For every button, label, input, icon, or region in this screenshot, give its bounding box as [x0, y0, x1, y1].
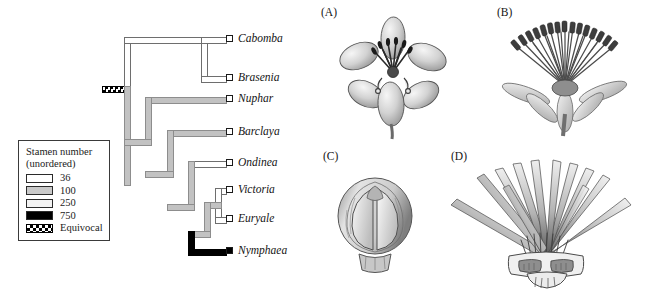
- flower-illustration-a: [333, 12, 453, 140]
- terminal-box-victoria-icon: [226, 186, 233, 193]
- legend-swatch-750-icon: [26, 211, 53, 220]
- terminal-box-euryale-icon: [226, 215, 233, 222]
- legend-swatch-250-icon: [26, 199, 53, 208]
- taxon-nymphaea: Nymphaea: [226, 243, 287, 257]
- legend-title: Stamen number (unordered): [26, 146, 103, 169]
- legend-item-250: 250: [26, 197, 103, 210]
- legend-box: Stamen number (unordered) 36 100 250 750…: [18, 140, 110, 241]
- taxon-ondinea: Ondinea: [226, 155, 278, 169]
- terminal-box-nymphaea-icon: [226, 247, 233, 254]
- terminal-box-brasenia-icon: [226, 74, 233, 81]
- branch-root-equivocal: [102, 86, 126, 93]
- branch-terminal-barclaya: [167, 130, 227, 137]
- taxon-euryale: Euryale: [226, 211, 274, 225]
- legend-label-250: 250: [60, 197, 76, 209]
- flower-illustration-c: [325, 168, 425, 280]
- terminal-box-cabomba-icon: [226, 35, 233, 42]
- figure-root: Stamen number (unordered) 36 100 250 750…: [0, 0, 657, 293]
- legend-item-36: 36: [26, 172, 103, 185]
- branch-to-node4: [167, 204, 195, 211]
- branch-terminal-nuphar: [145, 97, 227, 104]
- legend-label-750: 750: [60, 210, 76, 222]
- legend-title-line2: (unordered): [26, 158, 103, 170]
- taxon-victoria: Victoria: [226, 182, 275, 196]
- taxon-brasenia: Brasenia: [226, 70, 280, 84]
- branch-terminal-nymphaea: [188, 249, 227, 256]
- branch-to-node3: [145, 171, 174, 178]
- taxon-label-euryale: Euryale: [238, 212, 274, 225]
- branch-basal-vertical-lower: [124, 86, 131, 186]
- panel-label-c: (C): [323, 150, 338, 162]
- taxon-label-cabomba: Cabomba: [238, 32, 283, 45]
- terminal-box-barclaya-icon: [226, 128, 233, 135]
- legend-label-36: 36: [60, 172, 71, 184]
- branch-to-cabomba-brasenia-node: [124, 37, 208, 44]
- legend-item-100: 100: [26, 185, 103, 198]
- flower-illustration-d: [443, 158, 648, 291]
- legend-label-100: 100: [60, 185, 76, 197]
- flower-illustration-b: [500, 14, 630, 139]
- legend-swatch-36-icon: [26, 174, 53, 183]
- branch-terminal-brasenia: [201, 76, 227, 83]
- taxon-label-nuphar: Nuphar: [238, 92, 273, 105]
- legend-title-line1: Stamen number: [26, 146, 103, 158]
- legend-item-equivocal: Equivocal: [26, 222, 103, 235]
- branch-to-node2: [124, 139, 152, 146]
- terminal-box-nuphar-icon: [226, 95, 233, 102]
- legend-swatch-equivocal-icon: [26, 224, 53, 233]
- taxon-label-nymphaea: Nymphaea: [238, 244, 287, 257]
- legend-label-equivocal: Equivocal: [60, 222, 103, 234]
- taxon-label-ondinea: Ondinea: [238, 156, 278, 169]
- taxon-label-victoria: Victoria: [238, 183, 275, 196]
- taxon-label-barclaya: Barclaya: [238, 125, 280, 138]
- taxon-label-brasenia: Brasenia: [238, 71, 280, 84]
- taxon-nuphar: Nuphar: [226, 91, 273, 105]
- branch-basal-vertical-upper: [124, 37, 131, 93]
- legend-item-750: 750: [26, 210, 103, 223]
- taxon-cabomba: Cabomba: [226, 31, 283, 45]
- taxon-barclaya: Barclaya: [226, 124, 280, 138]
- terminal-box-ondinea-icon: [226, 159, 233, 166]
- branch-terminal-cabomba: [201, 37, 227, 44]
- legend-swatch-100-icon: [26, 186, 53, 195]
